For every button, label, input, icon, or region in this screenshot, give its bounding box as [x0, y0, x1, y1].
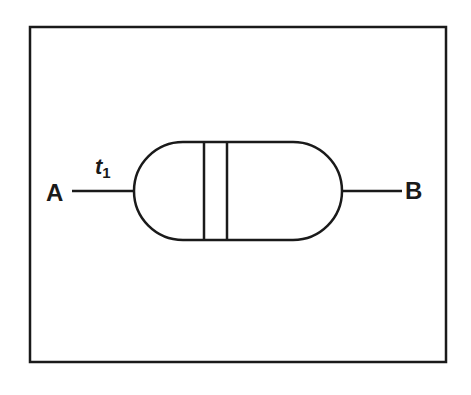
frame-border — [30, 27, 446, 362]
capsule-body — [134, 142, 342, 240]
time-label: t1 — [95, 154, 111, 181]
diagram-canvas: A B t1 — [0, 0, 471, 395]
terminal-label-a: A — [46, 179, 63, 206]
time-label-subscript: 1 — [102, 164, 110, 181]
terminal-label-b: B — [405, 177, 422, 204]
